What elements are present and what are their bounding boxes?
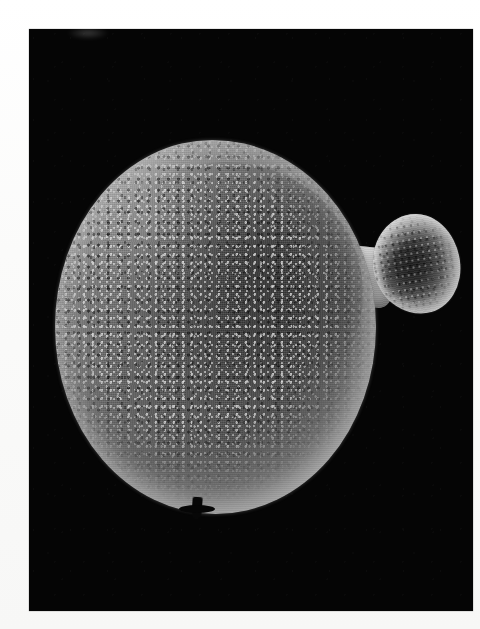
specimen-group (29, 29, 473, 611)
bright-granules-layer (55, 140, 376, 514)
mother-cell-body (55, 140, 376, 514)
photo-plate (29, 29, 473, 611)
fine-texture-layer (55, 140, 376, 514)
debris-shadow (179, 505, 215, 513)
micrograph-page (0, 0, 480, 629)
granular-core-mask (55, 140, 376, 514)
image-caption (0, 0, 1, 1)
dark-granules-layer (55, 140, 376, 514)
